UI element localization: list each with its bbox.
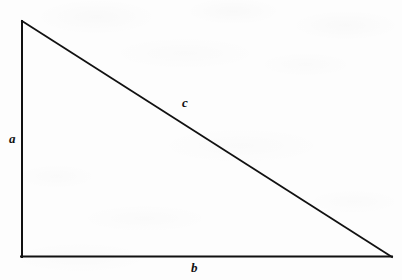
side-label-b: b bbox=[191, 261, 198, 274]
triangle-outline bbox=[21, 21, 392, 257]
triangle-drawing bbox=[0, 0, 402, 280]
side-label-a: a bbox=[9, 132, 16, 145]
side-label-c: c bbox=[182, 96, 188, 109]
right-triangle-figure: a b c bbox=[0, 0, 402, 280]
triangle-side-c-line bbox=[22, 21, 392, 257]
